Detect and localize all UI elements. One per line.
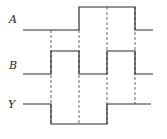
waveform-y <box>23 104 151 124</box>
signal-label-b: B <box>8 59 17 72</box>
signal-waveforms <box>23 7 153 124</box>
signal-label-a: A <box>8 13 17 26</box>
signal-label-y: Y <box>8 98 17 111</box>
waveform-b <box>23 51 153 74</box>
dashed-guide-lines <box>51 7 135 124</box>
signal-labels: A B Y <box>8 13 17 111</box>
timing-diagram: A B Y <box>0 0 167 139</box>
waveform-a <box>23 7 153 30</box>
